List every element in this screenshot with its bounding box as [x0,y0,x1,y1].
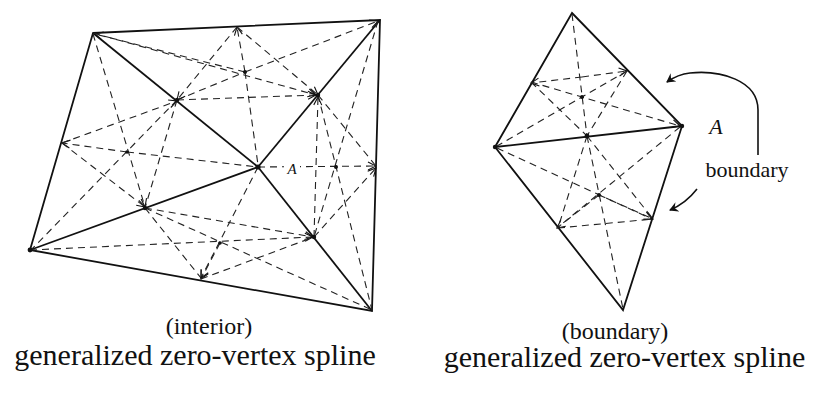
outer-boundary [30,20,380,311]
interior-subtitle: (interior) [145,313,273,340]
boundary-annotation: boundary [705,157,788,182]
interior-point-label: A [286,161,297,177]
interior-triangulation: A [28,20,380,311]
boundary-triangulation: A boundary [493,13,789,310]
boundary-title: generalized zero-vertex spline [437,340,812,374]
diagram-canvas: A [0,0,814,395]
interior-title: generalized zero-vertex spline [5,338,385,372]
vertex-a [255,164,260,169]
dashed-subdivision [30,21,378,310]
outer-boundary-right [495,13,682,310]
boundary-arrow-lower [670,189,697,210]
boundary-point-label: A [707,114,723,139]
